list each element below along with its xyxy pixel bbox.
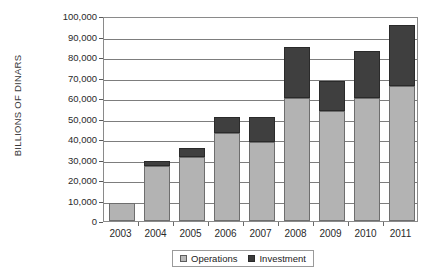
y-axis-tick-label: 80,000 [37,52,97,63]
gridline [104,39,417,40]
x-axis-tick-mark [138,222,139,226]
bar-segment-investment [389,25,415,85]
x-axis-tick-mark [313,222,314,226]
y-axis-tick-label: 60,000 [37,93,97,104]
x-axis-tick-mark [243,222,244,226]
y-axis-tick-label: 10,000 [37,196,97,207]
x-axis-tick-mark [383,222,384,226]
bar-segment-operations [214,133,240,221]
y-axis-tick-label: 90,000 [37,32,97,43]
x-axis-tick-mark [348,222,349,226]
y-axis-tick-label: 70,000 [37,73,97,84]
y-axis-title: BILLIONS OF DINARS [12,21,23,191]
y-axis-tick-mark [99,222,103,223]
bar-segment-investment [284,47,310,98]
square-light-icon [180,255,187,262]
square-dark-icon [248,255,255,262]
legend-item-operations: Operations [180,253,237,264]
bar-segment-operations [109,203,135,221]
bar-segment-investment [249,117,275,142]
y-axis-tick-label: 50,000 [37,114,97,125]
x-axis-tick-label: 2011 [378,228,424,239]
y-axis-tick-label: 30,000 [37,155,97,166]
bar-segment-investment [354,51,380,98]
x-axis-tick-mark [208,222,209,226]
bar-segment-operations [249,142,275,221]
x-axis-tick-mark [278,222,279,226]
bar-segment-operations [389,86,415,221]
bar-segment-investment [179,148,205,157]
plot-area [103,17,418,222]
y-axis-tick-label: 100,000 [37,11,97,22]
bar-segment-operations [319,111,345,221]
bar-segment-operations [144,166,170,221]
bar-segment-investment [144,161,170,166]
bar-segment-operations [179,157,205,221]
bar-segment-investment [319,81,345,112]
legend-label-investment: Investment [259,253,305,264]
chart-container: BILLIONS OF DINARS 010,00020,00030,00040… [0,0,436,276]
y-axis-tick-label: 0 [37,216,97,227]
bar-segment-operations [284,98,310,221]
y-axis-tick-label: 20,000 [37,175,97,186]
bar-segment-investment [214,117,240,132]
legend-item-investment: Investment [248,253,305,264]
legend-label-operations: Operations [191,253,237,264]
bar-segment-operations [354,98,380,221]
chart-legend: Operations Investment [172,250,314,267]
y-axis-tick-label: 40,000 [37,134,97,145]
x-axis-tick-mark [173,222,174,226]
